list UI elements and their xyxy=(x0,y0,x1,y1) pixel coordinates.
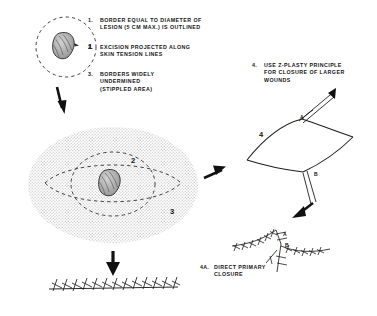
step-3-text: BORDERS WIDELY UNDERMINED (STIPPLED AREA… xyxy=(100,71,154,93)
panel-undermining xyxy=(28,127,198,243)
marker-sutured-a: A xyxy=(283,232,287,237)
step-4-text: USE Z-PLASTY PRINCIPLE FOR CLOSURE OF LA… xyxy=(264,62,345,84)
flap-a-limb-right xyxy=(303,97,334,123)
marker-zplasty-flap: 4 xyxy=(259,131,263,139)
flap-a-arrowhead xyxy=(328,88,336,99)
step-2: 2. EXCISION PROJECTED ALONG SKIN TENSION… xyxy=(88,44,190,59)
arrow-down-to-zplasty-sutured xyxy=(292,203,313,218)
lesion-shape-1 xyxy=(53,32,79,58)
step-1: 1. BORDER EQUAL TO DIAMETER OF LESION (5… xyxy=(88,17,202,32)
flap-b-limb-left xyxy=(303,173,311,204)
panel-lesion-outline xyxy=(36,17,96,77)
marker-flap-b: B xyxy=(314,172,318,177)
panel-zplasty-flap xyxy=(247,88,353,204)
step-3-number: 3. xyxy=(88,71,100,78)
marker-lesion-circle: 1 xyxy=(88,43,92,51)
step-1-text: BORDER EQUAL TO DIAMETER OF LESION (5 CM… xyxy=(100,17,202,32)
step-4-number: 4. xyxy=(252,62,264,69)
step-3: 3. BORDERS WIDELY UNDERMINED (STIPPLED A… xyxy=(88,71,154,93)
step-4a-number: 4A. xyxy=(200,264,214,271)
marker-sutured-b: B xyxy=(285,243,289,248)
step-4: 4. USE Z-PLASTY PRINCIPLE FOR CLOSURE OF… xyxy=(252,62,345,84)
step-4a: 4A. DIRECT PRIMARY CLOSURE xyxy=(200,264,266,279)
step-1-number: 1. xyxy=(88,17,100,24)
step-2-text: EXCISION PROJECTED ALONG SKIN TENSION LI… xyxy=(100,44,190,59)
step-4a-text: DIRECT PRIMARY CLOSURE xyxy=(214,264,266,279)
arrow-right-to-zplasty xyxy=(204,166,226,179)
marker-flap-a: A xyxy=(300,115,304,120)
arrow-down-to-undermining xyxy=(57,87,67,114)
panel-primary-closure xyxy=(49,277,180,291)
arrow-down-to-primary-closure xyxy=(106,251,120,276)
surgical-technique-figure: 1. BORDER EQUAL TO DIAMETER OF LESION (5… xyxy=(0,0,377,316)
marker-excision-ellipse: 2 xyxy=(131,157,135,165)
marker-undermined-area: 3 xyxy=(170,208,174,216)
